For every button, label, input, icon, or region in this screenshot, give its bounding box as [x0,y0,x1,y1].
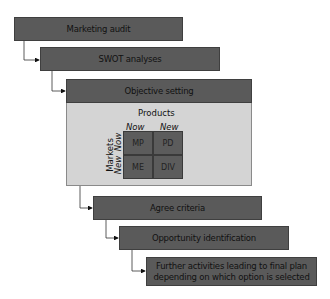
step-label: Objective setting [124,86,193,96]
step-label: Marketing audit [67,24,131,34]
products-axis-title: Products [138,108,175,118]
matrix-cell-mp: MP [123,131,153,155]
step-objective-setting: Objective setting [66,79,252,103]
step-further-activities: Further activities leading to final plan… [146,257,317,286]
step-agree-criteria: Agree criteria [93,196,262,220]
step-swot-analyses: SWOT analyses [40,47,220,71]
matrix-cell-div: DIV [153,155,183,179]
step-label: SWOT analyses [98,54,161,64]
markets-new-label: New [113,152,123,178]
matrix-cell-pd: PD [153,131,183,155]
step-marketing-audit: Marketing audit [14,17,183,41]
matrix-cell-me: ME [123,155,153,179]
step-opportunity-identification: Opportunity identification [119,226,289,250]
step-label: Further activities leading to final plan… [151,261,312,281]
step-label: Opportunity identification [152,233,256,243]
step-label: Agree criteria [150,203,205,213]
